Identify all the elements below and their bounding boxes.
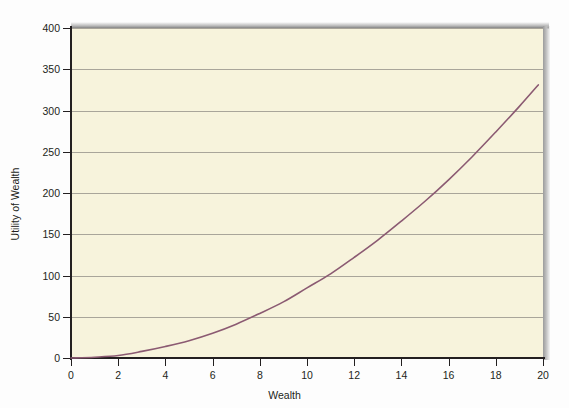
x-tick-label-18: 18 <box>490 370 502 381</box>
x-tick-10 <box>307 359 308 366</box>
x-tick-label-14: 14 <box>396 370 408 381</box>
y-tick-label-100: 100 <box>42 271 60 282</box>
x-tick-12 <box>354 359 355 366</box>
y-tick-label-350: 350 <box>42 64 60 75</box>
y-axis-title: Utility of Wealth <box>8 0 22 408</box>
x-tick-label-6: 6 <box>210 370 216 381</box>
x-tick-8 <box>260 359 261 366</box>
x-axis-title: Wealth <box>0 389 569 401</box>
y-tick-350 <box>63 69 71 70</box>
x-tick-0 <box>71 359 72 366</box>
y-tick-label-0: 0 <box>54 353 60 364</box>
plot-right-shadow <box>543 26 550 360</box>
y-tick-label-200: 200 <box>42 188 60 199</box>
y-tick-label-400: 400 <box>42 23 60 34</box>
x-tick-label-4: 4 <box>162 370 168 381</box>
utility-of-wealth-chart: 050100150200250300350400 024681012141618… <box>0 0 569 408</box>
x-tick-label-0: 0 <box>68 370 74 381</box>
x-tick-label-2: 2 <box>115 370 121 381</box>
y-tick-250 <box>63 152 71 153</box>
y-tick-100 <box>63 276 71 277</box>
x-tick-4 <box>165 359 166 366</box>
y-axis-title-text: Utility of Wealth <box>9 168 21 241</box>
x-axis-title-text: Wealth <box>268 389 301 401</box>
y-tick-label-50: 50 <box>48 312 60 323</box>
x-tick-label-8: 8 <box>257 370 263 381</box>
x-tick-20 <box>543 359 544 366</box>
y-tick-label-250: 250 <box>42 147 60 158</box>
y-tick-0 <box>63 358 71 359</box>
y-tick-300 <box>63 111 71 112</box>
x-tick-label-16: 16 <box>443 370 455 381</box>
y-tick-200 <box>63 193 71 194</box>
y-tick-label-150: 150 <box>42 229 60 240</box>
x-tick-label-20: 20 <box>537 370 549 381</box>
x-tick-6 <box>213 359 214 366</box>
y-tick-50 <box>63 317 71 318</box>
y-tick-400 <box>63 28 71 29</box>
x-tick-label-10: 10 <box>301 370 313 381</box>
series-utility-of-wealth <box>71 28 543 358</box>
x-tick-2 <box>118 359 119 366</box>
x-tick-label-12: 12 <box>348 370 360 381</box>
y-tick-label-300: 300 <box>42 106 60 117</box>
x-tick-14 <box>401 359 402 366</box>
x-tick-16 <box>449 359 450 366</box>
utility-curve-path <box>71 85 538 358</box>
x-tick-18 <box>496 359 497 366</box>
y-tick-150 <box>63 234 71 235</box>
